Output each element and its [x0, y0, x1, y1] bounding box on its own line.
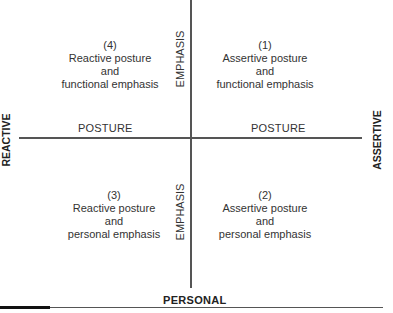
- quadrant-1-line1: Assertive posture: [200, 52, 330, 65]
- quadrant-3-number: (3): [49, 189, 179, 202]
- quadrant-4-line2: and: [45, 65, 175, 78]
- quadrant-1: (1) Assertive posture and functional emp…: [200, 39, 330, 91]
- personal-axis-label: PERSONAL: [163, 294, 227, 306]
- quadrant-1-number: (1): [200, 39, 330, 52]
- quadrant-4-line1: Reactive posture: [45, 52, 175, 65]
- quadrant-4: (4) Reactive posture and functional emph…: [45, 39, 175, 91]
- quadrant-3-line1: Reactive posture: [49, 202, 179, 215]
- bottom-rule-line: [50, 307, 383, 308]
- emphasis-label-top: EMPHASIS: [174, 29, 186, 89]
- horizontal-axis-line: [19, 137, 362, 139]
- quadrant-2-line1: Assertive posture: [200, 202, 330, 215]
- reactive-axis-label: REACTIVE: [0, 100, 12, 180]
- quadrant-1-line3: functional emphasis: [200, 78, 330, 91]
- quadrant-1-line2: and: [200, 65, 330, 78]
- quadrant-4-number: (4): [45, 39, 175, 52]
- quadrant-2-line2: and: [200, 215, 330, 228]
- vertical-axis-line: [190, 0, 192, 288]
- quadrant-2: (2) Assertive posture and personal empha…: [200, 189, 330, 241]
- assertive-axis-label: ASSERTIVE: [371, 100, 383, 180]
- quadrant-3: (3) Reactive posture and personal emphas…: [49, 189, 179, 241]
- bottom-thick-bar: [0, 306, 50, 309]
- emphasis-label-bottom: EMPHASIS: [174, 182, 186, 242]
- quadrant-3-line3: personal emphasis: [49, 228, 179, 241]
- quadrant-2-number: (2): [200, 189, 330, 202]
- quadrant-2-line3: personal emphasis: [200, 228, 330, 241]
- posture-label-left: POSTURE: [78, 122, 133, 134]
- quadrant-3-line2: and: [49, 215, 179, 228]
- quadrant-4-line3: functional emphasis: [45, 78, 175, 91]
- posture-label-right: POSTURE: [251, 122, 306, 134]
